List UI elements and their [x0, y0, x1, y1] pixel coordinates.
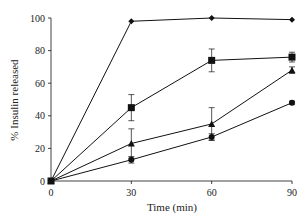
- y-tick-label: 0: [40, 176, 45, 187]
- circle-marker: [289, 100, 295, 106]
- square-marker: [289, 54, 296, 61]
- axes: 0204060801000306090: [30, 13, 297, 199]
- y-tick-label: 40: [35, 110, 45, 121]
- diamond-marker: [209, 15, 215, 21]
- circle-marker: [209, 134, 215, 140]
- insulin-release-chart: 0204060801000306090 % Insulin released T…: [0, 0, 308, 224]
- diamond-marker: [289, 17, 295, 23]
- square-marker: [208, 57, 215, 64]
- y-axis-label: % Insulin released: [8, 59, 20, 141]
- series-line: [51, 57, 292, 181]
- series-line: [51, 18, 292, 181]
- triangle-marker: [208, 120, 215, 127]
- circle-marker: [128, 157, 134, 163]
- x-tick-label: 0: [49, 187, 54, 198]
- series-line: [51, 70, 292, 181]
- x-tick-label: 60: [207, 187, 217, 198]
- diamond-marker: [128, 18, 134, 24]
- square-marker: [128, 104, 135, 111]
- data-series: [48, 15, 296, 185]
- circle-marker: [48, 178, 54, 184]
- y-tick-label: 60: [35, 78, 45, 89]
- y-tick-label: 80: [35, 45, 45, 56]
- y-tick-label: 100: [30, 13, 45, 24]
- x-tick-label: 30: [126, 187, 136, 198]
- y-tick-label: 20: [35, 143, 45, 154]
- series-line: [51, 103, 292, 181]
- x-axis-label: Time (min): [147, 201, 197, 214]
- triangle-marker: [289, 67, 296, 74]
- x-tick-label: 90: [287, 187, 297, 198]
- series-diamond: [48, 15, 295, 184]
